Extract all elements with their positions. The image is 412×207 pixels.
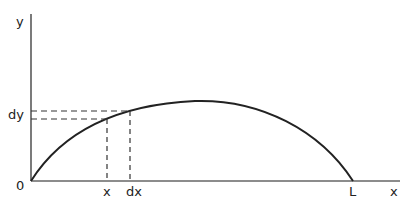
y-axis-label: y: [16, 14, 24, 29]
origin-label: 0: [16, 178, 24, 193]
dx-marker-label: dx: [126, 184, 142, 199]
x-marker-label: x: [103, 184, 111, 199]
dy-label: dy: [8, 107, 24, 122]
arc-diagram: y dy 0 x dx L x: [0, 0, 412, 207]
l-label: L: [349, 184, 357, 199]
arc-curve: [31, 101, 353, 181]
x-axis-label: x: [390, 184, 398, 199]
